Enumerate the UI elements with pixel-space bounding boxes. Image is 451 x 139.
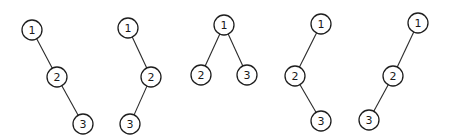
edge-2-3 (62, 86, 78, 115)
node-3: 3 (237, 65, 257, 85)
edge-1-3 (228, 34, 243, 66)
edge-2-3 (374, 85, 388, 111)
node-1: 1 (22, 20, 42, 40)
node-label: 1 (125, 22, 132, 35)
node-1: 1 (118, 18, 138, 38)
node-label: 3 (366, 114, 373, 127)
node-2: 2 (383, 66, 403, 86)
diagram-svg: 123123123123123 (0, 0, 451, 139)
node-label: 2 (54, 71, 61, 84)
node-2: 2 (285, 66, 305, 86)
edge-1-2 (397, 32, 413, 67)
node-label: 2 (148, 71, 155, 84)
node-1: 1 (408, 13, 428, 33)
node-label: 2 (390, 70, 397, 83)
node-label: 3 (318, 115, 325, 128)
node-label: 1 (318, 18, 325, 31)
node-label: 2 (292, 70, 299, 83)
edge-1-2 (205, 34, 220, 66)
node-2: 2 (191, 65, 211, 85)
tree-1: 123 (22, 20, 93, 134)
edge-1-2 (299, 33, 316, 67)
node-label: 1 (415, 17, 422, 30)
edge-2-3 (134, 86, 147, 115)
node-1: 1 (214, 15, 234, 35)
tree-4: 123 (285, 14, 331, 131)
edge-2-3 (300, 85, 316, 113)
tree-5: 123 (359, 13, 428, 130)
edge-1-2 (132, 37, 147, 68)
node-2: 2 (47, 67, 67, 87)
node-3: 3 (359, 110, 379, 130)
node-label: 3 (244, 69, 251, 82)
edge-1-2 (37, 39, 53, 68)
tree-3: 123 (191, 15, 257, 85)
node-3: 3 (73, 114, 93, 134)
node-label: 1 (221, 19, 228, 32)
binary-trees-diagram: 123123123123123 (0, 0, 451, 139)
node-3: 3 (311, 111, 331, 131)
node-1: 1 (311, 14, 331, 34)
node-label: 3 (127, 118, 134, 131)
node-2: 2 (141, 67, 161, 87)
node-label: 3 (80, 118, 87, 131)
tree-2: 123 (118, 18, 161, 134)
node-3: 3 (120, 114, 140, 134)
node-label: 2 (198, 69, 205, 82)
node-label: 1 (29, 24, 36, 37)
